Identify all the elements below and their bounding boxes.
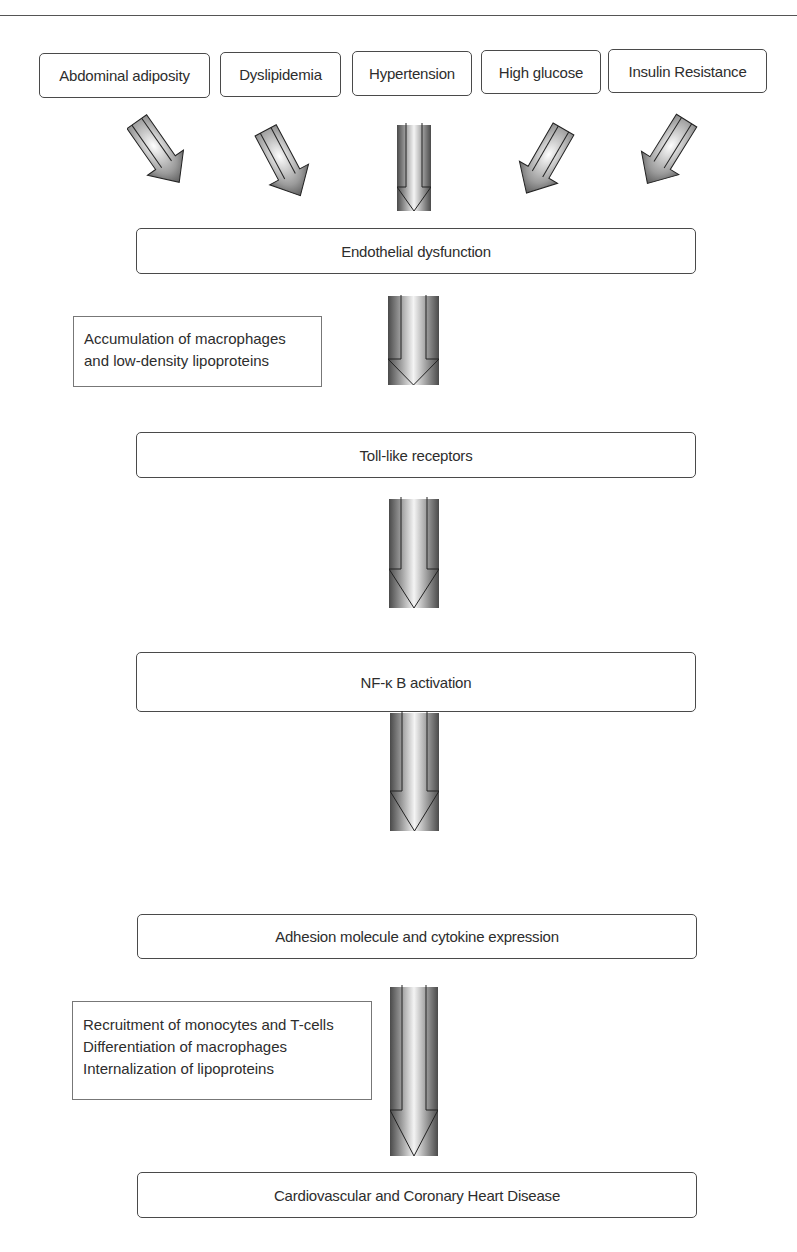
down-arrow-icon — [389, 497, 439, 608]
side-note-line: and low-density lipoproteins — [84, 350, 311, 372]
risk-factor-hypertension: Hypertension — [352, 51, 472, 96]
side-note-line: Internalization of lipoproteins — [83, 1058, 361, 1080]
risk-factor-insulin-resistance: Insulin Resistance — [608, 49, 767, 93]
risk-factor-abdominal-adiposity: Abdominal adiposity — [39, 53, 210, 98]
side-note-recruitment: Recruitment of monocytes and T-cells Dif… — [72, 1001, 372, 1100]
diagonal-arrow-icon — [514, 118, 576, 204]
step-cardiovascular-disease: Cardiovascular and Coronary Heart Diseas… — [137, 1172, 697, 1218]
diagonal-arrow-icon — [636, 112, 698, 192]
down-arrow-icon — [390, 985, 438, 1156]
step-endothelial-dysfunction: Endothelial dysfunction — [136, 228, 696, 274]
down-arrow-icon — [388, 295, 439, 385]
step-nf-kb-activation: NF-κ B activation — [136, 652, 696, 712]
step-adhesion-molecule-cytokine: Adhesion molecule and cytokine expressio… — [137, 914, 697, 959]
side-note-line: Recruitment of monocytes and T-cells — [83, 1014, 361, 1036]
diagonal-arrow-icon — [127, 113, 189, 191]
down-arrow-icon — [397, 123, 431, 211]
side-note-line: Accumulation of macrophages — [84, 328, 311, 350]
down-arrow-icon — [390, 711, 439, 831]
step-toll-like-receptors: Toll-like receptors — [136, 432, 696, 478]
top-rule — [0, 15, 797, 16]
side-note-line: Differentiation of macrophages — [83, 1036, 361, 1058]
risk-factor-dyslipidemia: Dyslipidemia — [220, 52, 341, 97]
diagonal-arrow-icon — [252, 124, 314, 202]
risk-factor-high-glucose: High glucose — [481, 50, 601, 94]
side-note-accumulation: Accumulation of macrophages and low-dens… — [73, 316, 322, 387]
